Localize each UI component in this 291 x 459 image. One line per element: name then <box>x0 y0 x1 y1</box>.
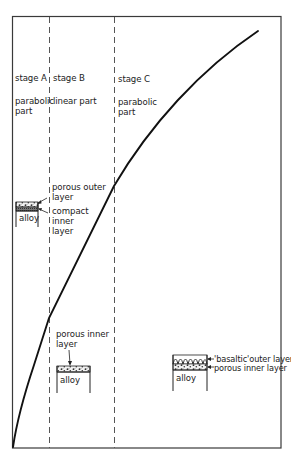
stage-b-title: stage B <box>53 73 85 83</box>
stage-b-layer-label-line2: layer <box>56 339 77 349</box>
oxidation-kinetics-diagram: stage A stage B stage C parabolic part l… <box>0 0 291 459</box>
stage-a-inner-label-line3: layer <box>52 226 73 236</box>
stage-c-part-line2: part <box>118 107 135 117</box>
stage-b-alloy-label: alloy <box>60 375 80 385</box>
stage-a-inner-label-line1: compact <box>52 206 88 216</box>
stage-a-alloy-label: alloy <box>19 213 39 223</box>
stage-c-part-line1: parabolic <box>118 97 157 107</box>
stage-c-inner-label: porous inner layer <box>214 363 287 373</box>
diagram-canvas <box>0 0 291 459</box>
stage-a-part-line2: part <box>15 106 32 116</box>
stage-b-inset <box>57 350 90 393</box>
stage-a-title: stage A <box>15 73 47 83</box>
stage-a-part-line1: parabolic <box>15 96 54 106</box>
stage-b-layer-label-line1: porous inner <box>56 329 109 339</box>
stage-c-alloy-label: alloy <box>176 373 196 383</box>
stage-a-outer-label-line2: layer <box>52 192 73 202</box>
stage-a-inner-label-line2: inner <box>52 216 74 226</box>
stage-a-outer-label-line1: porous outer <box>52 182 106 192</box>
stage-b-part-line1: linear part <box>53 96 97 106</box>
stage-c-title: stage C <box>118 74 150 84</box>
